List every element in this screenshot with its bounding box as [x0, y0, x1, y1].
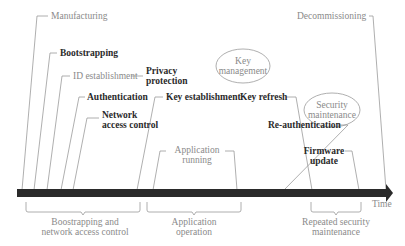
- time-axis-bar: [17, 189, 388, 197]
- firmware-update-line1: Firmware: [303, 146, 345, 156]
- firmware-update-line2: update: [303, 156, 345, 166]
- bootstrapping-leader: [34, 53, 57, 190]
- privacy-protection-label: Privacy protection: [146, 66, 188, 86]
- privacy-protection-line2: protection: [146, 76, 188, 86]
- security-maintenance-label: Security maintenance: [304, 100, 360, 120]
- lifecycle-timeline-diagram: Manufacturing Bootstrapping ID establish…: [0, 0, 405, 246]
- id-establishment-leader: [47, 76, 70, 190]
- application-running-line1: Application: [168, 145, 226, 155]
- key-management-label: Key management: [216, 56, 270, 76]
- key-refresh-label: Key refresh: [240, 92, 287, 102]
- bootstrapping-phase-label: Boostrapping and network access control: [33, 217, 137, 237]
- manufacturing-label: Manufacturing: [51, 11, 107, 21]
- security-maintenance-line1: Security: [304, 100, 360, 110]
- re-authentication-label: Re-authentication: [268, 120, 341, 130]
- network-access-leader: [73, 118, 99, 190]
- decommissioning-label: Decommissioning: [297, 11, 366, 21]
- security-maintenance-line2: maintenance: [304, 110, 360, 120]
- authentication-leader: [61, 97, 85, 190]
- application-running-leader-right: [225, 151, 237, 190]
- application-phase-label: Application operation: [164, 217, 224, 237]
- decommissioning-leader: [369, 16, 386, 190]
- bootstrapping-label: Bootstrapping: [60, 48, 118, 58]
- maintenance-phase-line2: maintenance: [302, 227, 370, 237]
- application-phase-line1: Application: [164, 217, 224, 227]
- firmware-update-label: Firmware update: [303, 146, 345, 166]
- bootstrapping-phase-line2: network access control: [33, 227, 137, 237]
- brace-application: [147, 202, 241, 215]
- authentication-label: Authentication: [87, 92, 148, 102]
- bootstrapping-phase-line1: Boostrapping and: [33, 217, 137, 227]
- maintenance-phase-line1: Repeated security: [302, 217, 370, 227]
- application-running-label: Application running: [168, 145, 226, 165]
- application-running-line2: running: [168, 155, 226, 165]
- network-access-control-label: Network access control: [102, 110, 158, 130]
- network-access-control-line2: access control: [102, 120, 158, 130]
- id-establishment-label: ID establishment: [73, 71, 138, 81]
- diagram-lines: [0, 0, 405, 246]
- brace-maintenance: [311, 202, 361, 215]
- application-running-leader-left: [153, 151, 166, 190]
- key-establishment-label: Key establishment: [166, 92, 241, 102]
- key-management-line1: Key: [216, 56, 270, 66]
- brace-bootstrapping: [26, 202, 140, 215]
- application-phase-line2: operation: [164, 227, 224, 237]
- privacy-protection-line1: Privacy: [146, 66, 188, 76]
- maintenance-phase-label: Repeated security maintenance: [302, 217, 370, 237]
- firmware-update-leader: [345, 151, 359, 190]
- time-axis-label: Time: [372, 199, 392, 209]
- key-management-line2: management: [216, 66, 270, 76]
- network-access-control-line1: Network: [102, 110, 158, 120]
